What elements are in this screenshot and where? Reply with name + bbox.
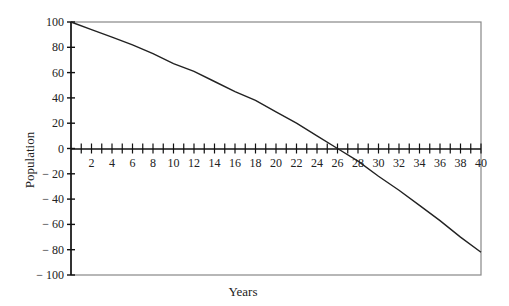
y-tick-label: − 80 <box>42 243 64 257</box>
x-tick-label: 30 <box>373 156 385 170</box>
x-tick-label: 28 <box>352 156 364 170</box>
x-tick-label: 12 <box>188 156 200 170</box>
x-tick-label: 16 <box>229 156 241 170</box>
x-tick-label: 18 <box>250 156 262 170</box>
y-tick-label: 80 <box>52 40 64 54</box>
x-axis-title: Years <box>228 284 257 299</box>
y-axis-title: Population <box>22 131 37 188</box>
y-tick-label: − 60 <box>42 217 64 231</box>
y-tick-label: 100 <box>46 15 64 29</box>
x-tick-label: 4 <box>109 156 115 170</box>
population-line <box>71 22 481 252</box>
y-tick-label: − 100 <box>36 268 64 282</box>
line-chart: 100806040200− 20− 40− 60− 80− 100 246810… <box>0 0 509 306</box>
x-tick-label: 8 <box>150 156 156 170</box>
x-tick-label: 10 <box>168 156 180 170</box>
x-tick-label: 40 <box>475 156 487 170</box>
x-tick-label: 24 <box>311 156 323 170</box>
x-tick-label: 2 <box>89 156 95 170</box>
x-tick-label: 6 <box>130 156 136 170</box>
x-tick-label: 32 <box>393 156 405 170</box>
x-tick-label: 14 <box>209 156 221 170</box>
x-tick-label: 38 <box>455 156 467 170</box>
x-tick-label: 20 <box>270 156 282 170</box>
y-axis-ticks: 100806040200− 20− 40− 60− 80− 100 <box>36 15 75 282</box>
y-tick-label: 60 <box>52 66 64 80</box>
x-tick-label: 34 <box>414 156 426 170</box>
y-tick-label: 0 <box>58 142 64 156</box>
y-tick-label: 40 <box>52 91 64 105</box>
y-tick-label: − 20 <box>42 167 64 181</box>
x-tick-label: 36 <box>434 156 446 170</box>
x-axis-ticks: 246810121416182022242628303234363840 <box>81 144 487 170</box>
y-tick-label: 20 <box>52 116 64 130</box>
x-tick-label: 26 <box>332 156 344 170</box>
x-tick-label: 22 <box>291 156 303 170</box>
y-tick-label: − 40 <box>42 192 64 206</box>
